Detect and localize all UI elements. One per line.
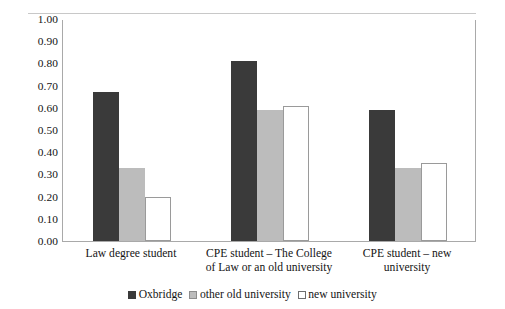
legend-label: Oxbridge bbox=[139, 288, 183, 301]
bar bbox=[369, 110, 395, 241]
legend-label: other old university bbox=[200, 288, 291, 301]
category-label-line: university bbox=[323, 261, 491, 275]
y-axis-tick-label: 1.00 bbox=[24, 14, 58, 25]
bar bbox=[231, 61, 257, 241]
y-axis-tick-label: 0.00 bbox=[24, 236, 58, 247]
y-axis-tick-label: 0.60 bbox=[24, 103, 58, 114]
bar bbox=[257, 110, 283, 241]
bar bbox=[145, 197, 171, 241]
category-label-line: CPE student – new bbox=[323, 247, 491, 261]
y-axis-tick-label: 0.10 bbox=[24, 214, 58, 225]
bar bbox=[119, 168, 145, 241]
chart-legend: Oxbridgeother old universitynew universi… bbox=[0, 288, 505, 301]
y-axis-tick-label: 0.50 bbox=[24, 125, 58, 136]
y-axis-tick-label: 0.30 bbox=[24, 169, 58, 180]
chart-top-rule bbox=[28, 13, 476, 14]
y-axis-tick-labels: 1.000.900.800.700.600.500.400.300.200.10… bbox=[20, 0, 58, 309]
bar bbox=[283, 106, 309, 241]
bar bbox=[421, 163, 447, 241]
legend-swatch-icon bbox=[128, 291, 136, 299]
x-axis-category-labels: Law degree studentCPE student – The Coll… bbox=[62, 247, 476, 285]
y-axis-tick-label: 0.20 bbox=[24, 192, 58, 203]
legend-label: new university bbox=[308, 288, 377, 301]
bar-chart: 1.000.900.800.700.600.500.400.300.200.10… bbox=[0, 0, 505, 309]
legend-swatch-icon bbox=[189, 291, 197, 299]
y-axis-tick-label: 0.70 bbox=[24, 81, 58, 92]
legend-swatch-icon bbox=[298, 291, 306, 299]
y-axis-tick-label: 0.80 bbox=[24, 58, 58, 69]
legend-entry: Oxbridge bbox=[128, 288, 182, 301]
legend-entry: other old university bbox=[189, 288, 290, 301]
plot-area bbox=[62, 20, 476, 242]
y-axis-tick-label: 0.90 bbox=[24, 36, 58, 47]
bar bbox=[395, 168, 421, 241]
legend-entry: new university bbox=[298, 288, 377, 301]
y-axis-tick-label: 0.40 bbox=[24, 147, 58, 158]
x-axis-category-label: CPE student – newuniversity bbox=[323, 247, 491, 275]
bar bbox=[93, 92, 119, 241]
